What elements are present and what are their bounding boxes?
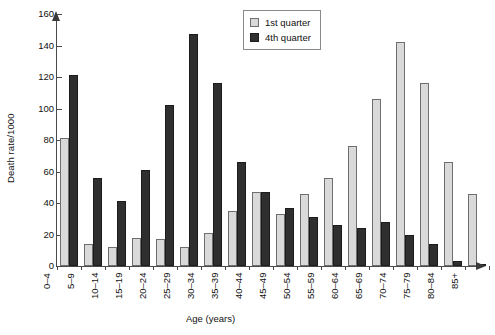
bar-4th-quarter[interactable] xyxy=(117,201,126,266)
y-axis-tick: 40 xyxy=(22,203,62,204)
plot-area xyxy=(57,14,489,266)
bar-chart: Death rate/1000 020406080100120140160 0–… xyxy=(0,0,495,335)
bar-group xyxy=(105,14,129,266)
bar-1st-quarter[interactable] xyxy=(348,146,357,266)
legend-swatch-icon-q1 xyxy=(250,18,259,27)
bar-group xyxy=(345,14,369,266)
legend: 1st quarter 4th quarter xyxy=(243,10,321,50)
y-axis-tick-label: 20 xyxy=(24,228,54,241)
y-axis-tick-label: 40 xyxy=(24,196,54,209)
y-axis-tick: 80 xyxy=(22,140,62,141)
bar-1st-quarter[interactable] xyxy=(180,247,189,266)
y-axis-tick: 160 xyxy=(22,14,62,15)
bar-1st-quarter[interactable] xyxy=(204,233,213,266)
bar-group xyxy=(153,14,177,266)
bar-4th-quarter[interactable] xyxy=(357,228,366,266)
x-axis-label: Age (years) xyxy=(186,313,235,324)
y-axis-tick: 20 xyxy=(22,235,62,236)
bar-1st-quarter[interactable] xyxy=(60,138,69,266)
bar-4th-quarter[interactable] xyxy=(69,75,78,266)
bar-4th-quarter[interactable] xyxy=(381,222,390,266)
x-axis-tick-mark xyxy=(489,266,490,270)
legend-swatch-icon-q4 xyxy=(250,33,259,42)
bar-4th-quarter[interactable] xyxy=(261,192,270,266)
x-axis-line xyxy=(56,266,477,267)
x-axis-tick-mark xyxy=(321,266,322,270)
y-axis-label: Death rate/1000 xyxy=(0,88,22,208)
bar-1st-quarter[interactable] xyxy=(300,194,309,266)
bar-1st-quarter[interactable] xyxy=(444,162,453,266)
bar-1st-quarter[interactable] xyxy=(108,247,117,266)
bar-4th-quarter[interactable] xyxy=(165,105,174,266)
bar-group xyxy=(225,14,249,266)
x-axis-tick-mark xyxy=(105,266,106,270)
y-axis-tick-label: 0 xyxy=(24,259,54,272)
y-axis-tick-label: 160 xyxy=(24,7,54,20)
bar-1st-quarter[interactable] xyxy=(276,214,285,266)
x-axis-tick-mark xyxy=(201,266,202,270)
bar-4th-quarter[interactable] xyxy=(309,217,318,266)
bar-group xyxy=(369,14,393,266)
bar-4th-quarter[interactable] xyxy=(429,244,438,266)
bar-group xyxy=(417,14,441,266)
bar-1st-quarter[interactable] xyxy=(156,239,165,266)
x-axis-tick-mark xyxy=(465,266,466,270)
bar-1st-quarter[interactable] xyxy=(324,178,333,266)
bar-group xyxy=(249,14,273,266)
x-axis-tick-mark xyxy=(393,266,394,270)
legend-label-q4: 4th quarter xyxy=(265,32,311,43)
y-axis-tick-label: 80 xyxy=(24,133,54,146)
bar-1st-quarter[interactable] xyxy=(396,42,405,266)
x-axis-tick-mark xyxy=(441,266,442,270)
bar-group xyxy=(129,14,153,266)
x-axis-arrow-icon xyxy=(476,262,486,270)
y-axis-tick: 100 xyxy=(22,109,62,110)
bar-1st-quarter[interactable] xyxy=(372,99,381,266)
y-axis-tick-label: 60 xyxy=(24,165,54,178)
y-axis-tick: 120 xyxy=(22,77,62,78)
bar-4th-quarter[interactable] xyxy=(285,208,294,266)
bar-4th-quarter[interactable] xyxy=(237,162,246,266)
y-axis-tick-label: 120 xyxy=(24,70,54,83)
bar-4th-quarter[interactable] xyxy=(333,225,342,266)
bar-4th-quarter[interactable] xyxy=(189,34,198,266)
bar-1st-quarter[interactable] xyxy=(132,238,141,266)
bar-1st-quarter[interactable] xyxy=(252,192,261,266)
x-axis-tick-mark xyxy=(225,266,226,270)
x-axis-tick-mark xyxy=(57,266,58,270)
legend-item-q4[interactable]: 4th quarter xyxy=(250,30,311,45)
legend-item-q1[interactable]: 1st quarter xyxy=(250,15,311,30)
bar-4th-quarter[interactable] xyxy=(405,235,414,267)
y-axis-tick: 140 xyxy=(22,46,62,47)
bar-group xyxy=(441,14,465,266)
y-axis-tick: 60 xyxy=(22,172,62,173)
bar-group xyxy=(297,14,321,266)
x-axis-tick-mark xyxy=(273,266,274,270)
bar-group xyxy=(465,14,489,266)
y-axis-tick-label: 140 xyxy=(24,39,54,52)
x-axis-tick-mark xyxy=(249,266,250,270)
bar-1st-quarter[interactable] xyxy=(84,244,93,266)
x-axis-tick-mark xyxy=(297,266,298,270)
bar-4th-quarter[interactable] xyxy=(141,170,150,266)
x-axis-tick-mark xyxy=(153,266,154,270)
bar-group xyxy=(273,14,297,266)
bar-group xyxy=(393,14,417,266)
bar-group xyxy=(201,14,225,266)
bar-4th-quarter[interactable] xyxy=(93,178,102,266)
bar-1st-quarter[interactable] xyxy=(420,83,429,266)
x-axis-tick-mark xyxy=(417,266,418,270)
bar-4th-quarter[interactable] xyxy=(213,83,222,266)
x-axis-tick-mark xyxy=(129,266,130,270)
x-axis-tick-mark xyxy=(177,266,178,270)
x-axis-tick-label: 85+ xyxy=(449,273,495,327)
x-axis-tick-mark xyxy=(81,266,82,270)
bar-group xyxy=(177,14,201,266)
bar-group xyxy=(321,14,345,266)
legend-label-q1: 1st quarter xyxy=(265,17,310,28)
x-axis-tick-mark xyxy=(345,266,346,270)
bar-1st-quarter[interactable] xyxy=(468,194,477,266)
y-axis-tick-label: 100 xyxy=(24,102,54,115)
bar-1st-quarter[interactable] xyxy=(228,211,237,266)
x-axis-tick-mark xyxy=(369,266,370,270)
